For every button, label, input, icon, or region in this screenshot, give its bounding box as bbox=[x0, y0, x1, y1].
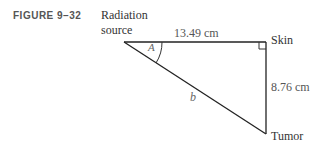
hypotenuse bbox=[124, 42, 266, 134]
right-angle-marker bbox=[259, 42, 266, 49]
triangle-diagram bbox=[0, 0, 325, 154]
angle-arc bbox=[156, 42, 162, 63]
